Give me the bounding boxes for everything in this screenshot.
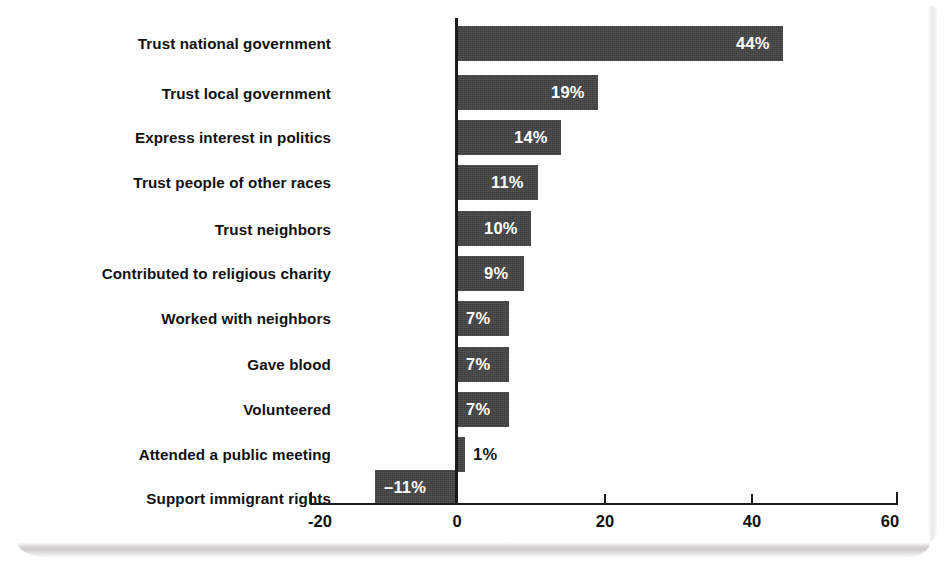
x-axis-tick [896, 492, 898, 505]
category-label: Trust people of other races [133, 175, 331, 190]
bar-value-label: 9% [484, 256, 508, 291]
bar-value-label: 7% [466, 392, 490, 427]
category-label: Express interest in politics [135, 130, 331, 145]
bar [457, 26, 783, 61]
bar-value-label: 44% [736, 26, 770, 61]
zero-axis-line [455, 18, 458, 505]
page-edge-highlight [928, 6, 937, 542]
x-axis-tick-label: 20 [596, 512, 614, 531]
bar-value-label: 11% [491, 165, 524, 200]
page-bottom-shadow-inner [26, 549, 926, 558]
bar-value-label: 14% [514, 120, 548, 155]
bar-value-label: –11% [384, 470, 426, 505]
category-label: Contributed to religious charity [102, 266, 331, 281]
category-label: Volunteered [243, 402, 331, 417]
category-label: Attended a public meeting [139, 447, 331, 462]
bar-value-label: 7% [466, 301, 490, 336]
bar-value-label: 19% [551, 75, 585, 110]
x-axis-tick-label: 60 [881, 512, 899, 531]
category-label: Gave blood [247, 357, 331, 372]
category-label: Support immigrant rights [146, 491, 331, 506]
bar-value-label: 1% [473, 437, 497, 472]
bar-value-label: 10% [484, 211, 518, 246]
x-axis-tick-label: 40 [743, 512, 761, 531]
x-axis-tick [456, 494, 458, 505]
x-axis-tick-label: -20 [308, 512, 332, 531]
x-axis-tick [310, 492, 312, 505]
bar-chart: Trust national government Trust local go… [0, 0, 945, 583]
x-axis-tick [604, 494, 606, 505]
x-axis-tick-label: 0 [452, 512, 461, 531]
scanned-page: Trust national government Trust local go… [0, 0, 945, 583]
category-label: Trust national government [138, 36, 331, 51]
category-label: Trust neighbors [215, 222, 331, 237]
bar-value-label: 7% [466, 347, 490, 382]
category-label: Worked with neighbors [161, 311, 331, 326]
category-label: Trust local government [162, 86, 331, 101]
bar [457, 437, 465, 472]
x-axis-tick [751, 494, 753, 505]
